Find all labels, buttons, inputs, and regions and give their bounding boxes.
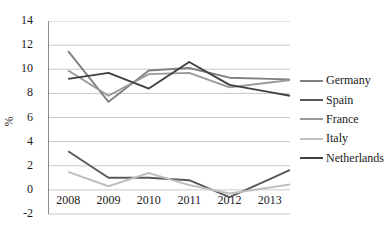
- x-axis-label: 2008: [46, 193, 90, 207]
- legend-item-germany: Germany: [300, 71, 390, 90]
- series-line-france: [68, 70, 290, 95]
- y-axis-tick-label: 2: [0, 158, 33, 173]
- legend-swatch-italy: [300, 138, 323, 140]
- x-axis-label: 2009: [87, 193, 131, 207]
- x-axis-label: 2012: [208, 193, 252, 207]
- legend-label-netherlands: Netherlands: [326, 152, 384, 165]
- x-axis-label: 2013: [248, 193, 292, 207]
- legend-swatch-germany: [300, 80, 323, 82]
- series-line-spain: [68, 151, 290, 197]
- x-axis-label: 2011: [167, 193, 211, 207]
- line-chart: % 14121086420-2 200820092010201120122013…: [0, 0, 391, 234]
- legend: GermanySpainFranceItalyNetherlands: [300, 71, 390, 168]
- x-axis-label: 2010: [127, 193, 171, 207]
- y-axis-tick-label: 4: [0, 134, 33, 149]
- legend-swatch-netherlands: [300, 157, 323, 159]
- legend-item-spain: Spain: [300, 90, 390, 109]
- series-line-italy: [68, 172, 290, 194]
- legend-label-spain: Spain: [326, 94, 353, 107]
- y-axis-tick-label: 8: [0, 85, 33, 100]
- y-axis-tick-label: 6: [0, 110, 33, 125]
- legend-item-netherlands: Netherlands: [300, 149, 390, 168]
- y-axis-tick-label: 12: [0, 37, 33, 52]
- legend-label-france: France: [326, 113, 359, 126]
- legend-item-france: France: [300, 110, 390, 129]
- y-axis-tick-label: 0: [0, 182, 33, 197]
- series-line-germany: [68, 51, 290, 102]
- y-axis-tick-label: -2: [0, 206, 33, 221]
- y-axis-tick-label: 14: [0, 13, 33, 28]
- legend-label-italy: Italy: [326, 132, 348, 145]
- legend-item-italy: Italy: [300, 129, 390, 148]
- legend-swatch-spain: [300, 99, 323, 101]
- y-axis-tick-label: 10: [0, 61, 33, 76]
- legend-swatch-france: [300, 118, 323, 120]
- legend-label-germany: Germany: [326, 74, 371, 87]
- series-line-netherlands: [68, 62, 290, 96]
- plot-area: [48, 21, 290, 215]
